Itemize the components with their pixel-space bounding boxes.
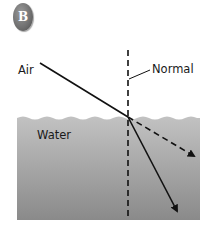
normal-label: Normal <box>152 62 194 76</box>
normal-label-leader <box>129 70 150 79</box>
incident-ray <box>40 63 128 117</box>
refraction-diagram: B Air Normal Water <box>0 0 210 237</box>
badge-letter: B <box>13 3 33 31</box>
diagram-canvas <box>0 0 210 237</box>
air-label: Air <box>18 63 34 77</box>
figure-badge: B <box>13 3 33 31</box>
water-label: Water <box>37 128 71 142</box>
